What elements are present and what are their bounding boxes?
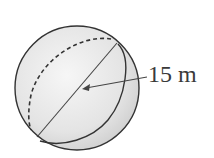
diameter-label: 15 m: [148, 62, 197, 86]
